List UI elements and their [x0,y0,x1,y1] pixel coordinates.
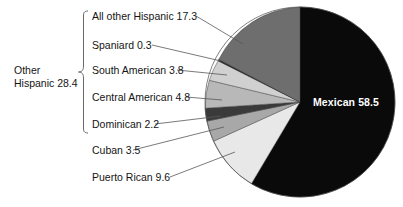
label-south-american: South American 3.8 [92,65,184,76]
label-mexican: Mexican 58.5 [313,96,379,108]
leader-line-cuban [133,127,224,150]
leader-line-spaniard [152,45,221,61]
other-hispanic-group-label-line2: Hispanic 28.4 [14,77,78,90]
pie-chart-figure: Other Hispanic 28.4 All other Hispanic 1… [0,0,403,207]
other-hispanic-group-label-line1: Other [14,64,78,77]
label-central-american: Central American 4.8 [92,92,190,103]
other-hispanic-group-label: Other Hispanic 28.4 [14,64,78,89]
label-cuban: Cuban 3.5 [92,145,140,156]
leader-line-all-other-hispanic [196,16,243,44]
label-all-other-hispanic: All other Hispanic 17.3 [92,11,197,22]
label-dominican: Dominican 2.2 [92,119,159,130]
leader-line-puerto-rican [170,152,235,177]
other-hispanic-brace [79,11,89,133]
label-puerto-rican: Puerto Rican 9.6 [92,172,170,183]
label-spaniard: Spaniard 0.3 [92,40,152,51]
